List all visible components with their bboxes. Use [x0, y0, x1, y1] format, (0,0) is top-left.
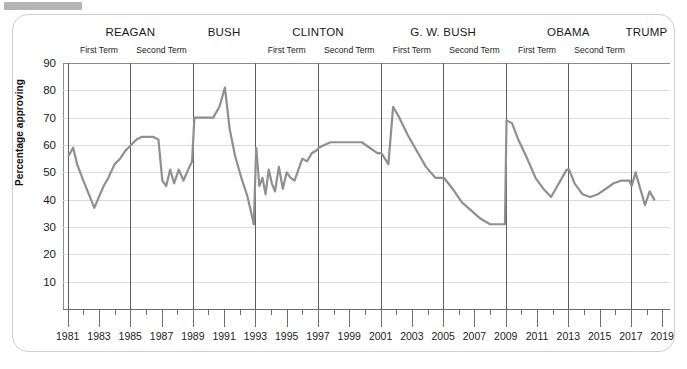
president-name-clinton: CLINTON — [258, 26, 378, 38]
x-tick-minor — [365, 309, 366, 315]
x-tick-minor — [521, 309, 522, 315]
x-tick-major — [443, 309, 444, 327]
y-tick-label: 70 — [16, 112, 56, 124]
x-tick-minor — [647, 309, 648, 315]
x-tick-label: 2003 — [400, 330, 423, 342]
x-tick-minor — [208, 309, 209, 315]
x-tick-major — [162, 309, 163, 327]
x-tick-major — [255, 309, 256, 327]
x-tick-minor — [584, 309, 585, 315]
plot-area — [63, 63, 670, 309]
approval-line-segment — [632, 172, 655, 205]
x-tick-label: 1997 — [306, 330, 329, 342]
x-tick-label: 2019 — [650, 330, 673, 342]
x-tick-minor — [302, 309, 303, 315]
x-tick-major — [224, 309, 225, 327]
chart-page: REAGANFirst TermSecond TermBUSHCLINTONFi… — [0, 0, 687, 369]
approval-line-series — [63, 63, 670, 309]
x-tick-minor — [459, 309, 460, 315]
x-tick-major — [662, 309, 663, 327]
x-tick-minor — [428, 309, 429, 315]
x-tick-major — [631, 309, 632, 327]
x-tick-label: 2011 — [526, 330, 549, 342]
y-tick-label: 60 — [16, 139, 56, 151]
term-label: Second Term — [122, 45, 202, 55]
approval-line-segment — [507, 120, 630, 197]
x-tick-label: 2005 — [431, 330, 454, 342]
x-tick-label: 1989 — [181, 330, 204, 342]
administration-transition-line — [192, 118, 194, 162]
x-tick-minor — [177, 309, 178, 315]
x-tick-label: 1993 — [244, 330, 267, 342]
administration-transition-line — [505, 120, 507, 224]
x-tick-label: 2007 — [463, 330, 486, 342]
x-tick-minor — [396, 309, 397, 315]
y-tick-label: 30 — [16, 221, 56, 233]
x-tick-label: 1991 — [212, 330, 235, 342]
x-tick-minor — [553, 309, 554, 315]
x-tick-major — [506, 309, 507, 327]
x-tick-major — [349, 309, 350, 327]
x-tick-major — [68, 309, 69, 327]
x-tick-major — [600, 309, 601, 327]
x-tick-label: 1999 — [338, 330, 361, 342]
y-tick-label: 90 — [16, 57, 56, 69]
approval-line-segment — [381, 107, 505, 225]
x-tick-label: 2013 — [557, 330, 580, 342]
y-tick-label: 40 — [16, 194, 56, 206]
y-tick-label: 20 — [16, 248, 56, 260]
x-tick-major — [318, 309, 319, 327]
x-tick-minor — [490, 309, 491, 315]
x-tick-minor — [115, 309, 116, 315]
president-name-g-w-bush: G. W. BUSH — [383, 26, 503, 38]
x-tick-label: 1987 — [150, 330, 173, 342]
x-tick-minor — [240, 309, 241, 315]
x-tick-label: 1981 — [56, 330, 79, 342]
x-tick-label: 2017 — [619, 330, 642, 342]
x-tick-label: 2015 — [588, 330, 611, 342]
y-tick-label: 10 — [16, 276, 56, 288]
x-tick-major — [568, 309, 569, 327]
x-tick-label: 2009 — [494, 330, 517, 342]
approval-line-segment — [194, 88, 253, 225]
x-tick-label: 1983 — [87, 330, 110, 342]
x-tick-label: 1995 — [275, 330, 298, 342]
x-tick-minor — [83, 309, 84, 315]
x-tick-major — [287, 309, 288, 327]
x-tick-major — [130, 309, 131, 327]
administration-transition-line — [254, 148, 256, 225]
y-tick-label: 50 — [16, 166, 56, 178]
x-tick-major — [193, 309, 194, 327]
president-name-trump: TRUMP — [587, 26, 687, 38]
x-tick-minor — [334, 309, 335, 315]
term-label: Second Term — [560, 45, 640, 55]
x-tick-major — [474, 309, 475, 327]
approval-line-segment — [68, 137, 192, 208]
x-tick-minor — [615, 309, 616, 315]
x-tick-major — [99, 309, 100, 327]
approval-line-segment — [256, 142, 377, 194]
administration-transition-line — [629, 181, 631, 186]
y-tick-label: 80 — [16, 84, 56, 96]
x-tick-minor — [271, 309, 272, 315]
x-axis-line — [63, 309, 670, 310]
x-tick-label: 2001 — [369, 330, 392, 342]
x-tick-major — [381, 309, 382, 327]
x-tick-minor — [146, 309, 147, 315]
x-tick-label: 1985 — [119, 330, 142, 342]
x-tick-major — [537, 309, 538, 327]
x-tick-major — [412, 309, 413, 327]
top-marker-bar — [4, 2, 82, 10]
